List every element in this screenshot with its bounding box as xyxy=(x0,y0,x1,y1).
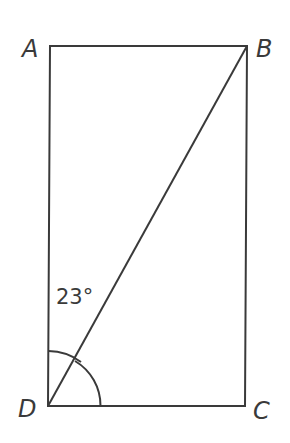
geometry-diagram: A B C D 23° xyxy=(0,0,290,443)
angle-label-adb: 23° xyxy=(56,285,93,309)
vertex-label-b: B xyxy=(256,35,272,63)
angle-arc-bdc xyxy=(75,361,101,406)
vertex-label-a: A xyxy=(20,35,38,63)
diagonal-db xyxy=(48,46,247,406)
vertex-label-c: C xyxy=(253,397,270,425)
vertex-label-d: D xyxy=(18,395,36,423)
